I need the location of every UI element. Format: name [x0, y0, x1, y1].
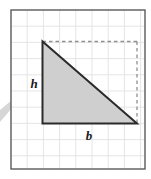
base-label: b: [86, 128, 93, 143]
triangle-figure-svg: h b: [0, 0, 151, 179]
triangle-figure-container: h b: [0, 0, 151, 179]
height-label: h: [30, 76, 37, 91]
